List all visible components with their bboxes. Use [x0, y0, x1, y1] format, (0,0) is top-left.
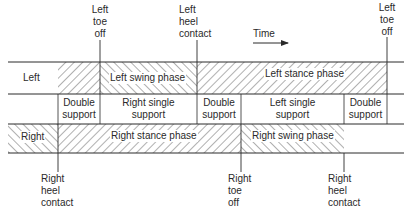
support-left-single: Left single support — [241, 97, 344, 121]
left-row-label: Left — [22, 72, 41, 84]
left-double-stance-hatch — [58, 62, 100, 94]
event-right-heel-contact-end: Right heel contact — [328, 173, 360, 209]
event-left-heel-contact: Left heel contact — [179, 4, 211, 40]
time-label: Time — [253, 28, 275, 40]
right-stance-phase: Right stance phase — [110, 130, 198, 142]
support-right-single: Right single support — [100, 97, 197, 121]
support-double-3: Double support — [344, 97, 387, 121]
support-double-1: Double support — [58, 97, 100, 121]
event-right-heel-contact: Right heel contact — [41, 173, 73, 209]
left-stance-phase: Left stance phase — [264, 68, 345, 80]
support-double-2: Double support — [197, 97, 241, 121]
left-swing-phase: Left swing phase — [109, 72, 186, 84]
right-row-label: Right — [20, 131, 45, 143]
event-left-toe-off: Left toe off — [88, 4, 112, 40]
event-right-toe-off: Right toe off — [228, 173, 251, 209]
event-left-toe-off-end: Left toe off — [375, 2, 399, 38]
right-swing-phase: Right swing phase — [251, 130, 335, 142]
